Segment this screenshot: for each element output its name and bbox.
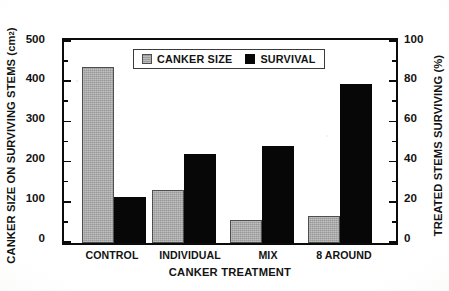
y-axis-right-ticklabel-80: 80 bbox=[404, 72, 417, 84]
bar-canker-size-individual bbox=[152, 190, 184, 243]
bar-canker-size-8-around bbox=[308, 216, 340, 243]
tick-right-30 bbox=[392, 181, 396, 183]
legend-item-survival: SURVIVAL bbox=[245, 53, 315, 65]
tick-left-200 bbox=[64, 161, 71, 163]
plot-area bbox=[62, 38, 398, 245]
x-axis-ticklabel-8-around: 8 AROUND bbox=[294, 249, 394, 261]
tick-left-150 bbox=[64, 181, 68, 183]
tick-left-350 bbox=[64, 100, 68, 102]
y-axis-right-ticklabel-40: 40 bbox=[404, 152, 417, 164]
tick-left-450 bbox=[64, 60, 68, 62]
tick-left-300 bbox=[64, 121, 71, 123]
gray-square-swatch-icon bbox=[142, 54, 152, 64]
y-axis-left-ticklabel-300: 300 bbox=[26, 112, 45, 124]
y-axis-left-title-superscript: 2 bbox=[7, 31, 16, 35]
tick-right-100 bbox=[389, 40, 396, 42]
bar-survival-8-around bbox=[340, 84, 372, 243]
y-axis-left-ticklabel-500: 500 bbox=[26, 33, 45, 45]
tick-right-80 bbox=[389, 80, 396, 82]
tick-right-50 bbox=[392, 141, 396, 143]
tick-left-50 bbox=[64, 221, 68, 223]
y-axis-left-ticklabel-100: 100 bbox=[26, 192, 45, 204]
bar-canker-size-control bbox=[82, 67, 114, 243]
y-axis-left-ticklabel-200: 200 bbox=[26, 152, 45, 164]
y-axis-right-ticklabel-100: 100 bbox=[404, 33, 423, 45]
y-axis-left-title-suffix: ) bbox=[5, 27, 17, 31]
legend-item-canker-size: CANKER SIZE bbox=[142, 53, 232, 65]
x-axis-title: CANKER TREATMENT bbox=[60, 266, 400, 278]
tick-right-90 bbox=[392, 60, 396, 62]
tick-right-60 bbox=[389, 121, 396, 123]
tick-left-250 bbox=[64, 141, 68, 143]
tick-left-400 bbox=[64, 80, 71, 82]
y-axis-right-title-text: TREATED STEMS SURVIVING (%) bbox=[432, 55, 444, 236]
bar-survival-control bbox=[114, 197, 146, 243]
black-square-swatch-icon bbox=[245, 54, 255, 64]
y-axis-right-ticklabel-0: 0 bbox=[404, 232, 410, 244]
bar-survival-mix bbox=[262, 146, 294, 243]
bar-survival-individual bbox=[184, 154, 216, 243]
y-axis-left-title: CANKER SIZE ON SURVIVING STEMS (cm2 ) bbox=[0, 0, 22, 291]
plot-inner bbox=[64, 40, 396, 243]
y-axis-right-ticklabel-60: 60 bbox=[404, 112, 417, 124]
tick-right-0 bbox=[389, 241, 396, 243]
y-axis-right-title: TREATED STEMS SURVIVING (%) bbox=[427, 0, 449, 291]
tick-right-20 bbox=[389, 201, 396, 203]
y-axis-left-ticklabel-0: 0 bbox=[39, 232, 45, 244]
y-axis-right-ticklabel-20: 20 bbox=[404, 192, 417, 204]
tick-left-500 bbox=[64, 40, 71, 42]
tick-left-0 bbox=[64, 241, 71, 243]
y-axis-left-ticklabel-400: 400 bbox=[26, 72, 45, 84]
bar-chart-figure: CANKER SIZE ON SURVIVING STEMS (cm2 ) TR… bbox=[0, 0, 449, 291]
chart-legend: CANKER SIZE SURVIVAL bbox=[133, 49, 325, 69]
legend-label-canker-size: CANKER SIZE bbox=[157, 53, 232, 65]
bar-canker-size-mix bbox=[230, 220, 262, 243]
tick-right-40 bbox=[389, 161, 396, 163]
tick-right-10 bbox=[392, 221, 396, 223]
legend-label-survival: SURVIVAL bbox=[260, 53, 315, 65]
y-axis-left-title-text: CANKER SIZE ON SURVIVING STEMS (cm bbox=[5, 35, 17, 263]
tick-right-70 bbox=[392, 100, 396, 102]
tick-left-100 bbox=[64, 201, 71, 203]
